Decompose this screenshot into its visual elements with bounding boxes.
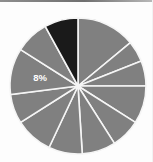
pie-chart-figure: 8% [0, 0, 153, 162]
pie-slice-group [10, 18, 146, 154]
slice-percent-label: 8% [33, 72, 47, 83]
pie-chart-svg: 8% [0, 0, 153, 162]
